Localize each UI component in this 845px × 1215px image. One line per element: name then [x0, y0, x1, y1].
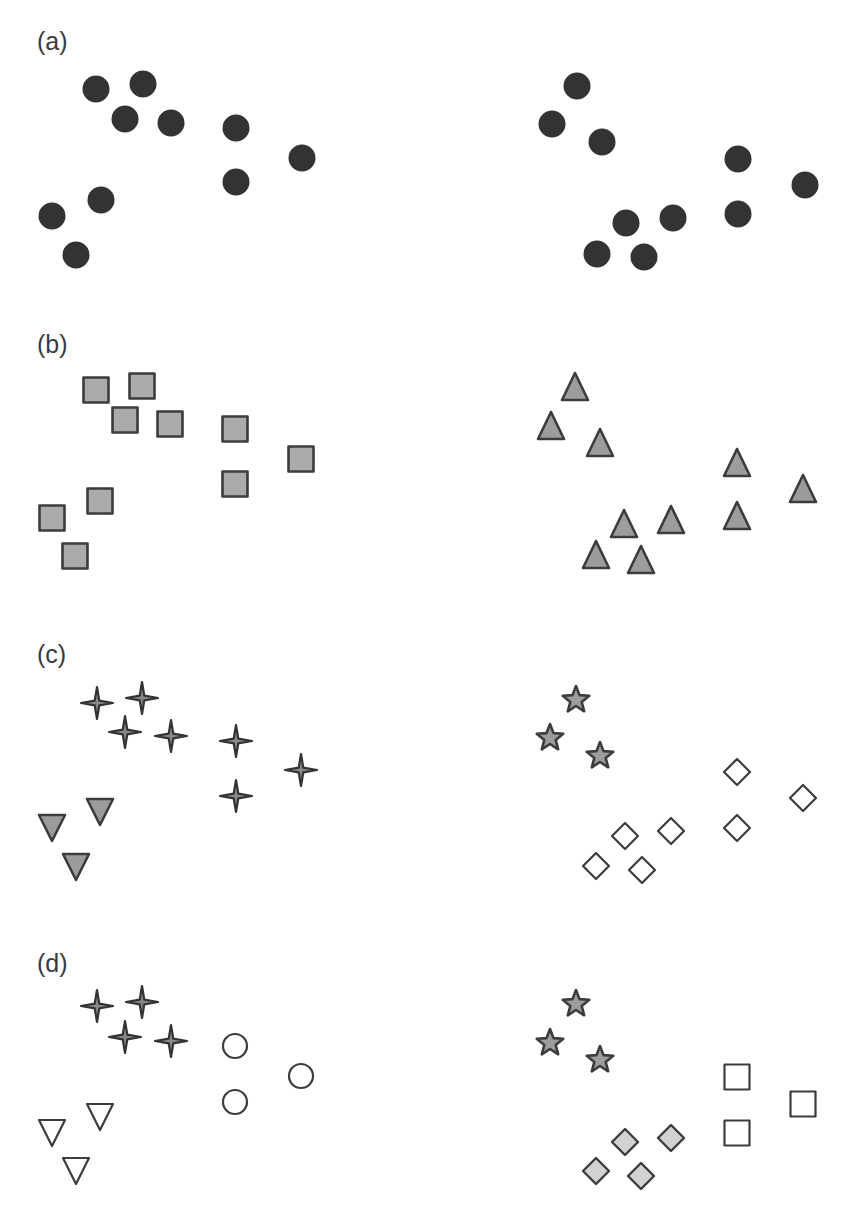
- left-cluster-squares: [40, 374, 314, 569]
- left-cluster-open-down-triangles: [39, 1104, 113, 1184]
- four-point-star-icon: [126, 682, 158, 714]
- diamond-marker-icon: [724, 815, 750, 841]
- right-cluster-triangles: [538, 373, 816, 573]
- five-point-star-icon: [537, 724, 564, 749]
- diamond-marker-icon: [612, 823, 638, 849]
- four-point-star-icon: [81, 990, 113, 1022]
- circle-marker-icon: [792, 172, 819, 199]
- four-point-star-icon: [285, 754, 317, 786]
- left-cluster-4pt-stars: [81, 986, 187, 1057]
- five-point-star-icon: [563, 686, 590, 711]
- circle-marker-icon: [289, 1064, 313, 1088]
- circle-marker-icon: [83, 76, 110, 103]
- circle-marker-icon: [88, 187, 115, 214]
- circle-marker-icon: [158, 110, 185, 137]
- triangle-up-marker-icon: [628, 546, 654, 573]
- square-marker-icon: [725, 1065, 750, 1090]
- square-marker-icon: [223, 417, 248, 442]
- left-cluster-circles: [39, 71, 316, 269]
- circle-marker-icon: [725, 146, 752, 173]
- panel-c-markers: [39, 682, 816, 883]
- four-point-star-icon: [126, 986, 158, 1018]
- panel-label-a: (a): [37, 27, 68, 55]
- triangle-up-marker-icon: [611, 510, 637, 537]
- panel-label-c: (c): [37, 640, 66, 668]
- panel-a-markers: [39, 71, 819, 271]
- circle-marker-icon: [63, 242, 90, 269]
- five-point-star-icon: [537, 1029, 564, 1054]
- panel-label-b: (b): [37, 330, 68, 358]
- triangle-down-marker-icon: [39, 815, 65, 841]
- diamond-marker-icon: [658, 1125, 684, 1151]
- triangle-up-marker-icon: [724, 502, 750, 529]
- square-marker-icon: [63, 544, 88, 569]
- square-marker-icon: [113, 408, 138, 433]
- diamond-marker-icon: [724, 759, 750, 785]
- triangle-up-marker-icon: [587, 429, 613, 456]
- four-point-star-icon: [155, 720, 187, 752]
- panel-c: (c): [37, 640, 816, 883]
- left-cluster-open-circles: [223, 1034, 313, 1114]
- circle-marker-icon: [223, 1090, 247, 1114]
- diamond-marker-icon: [790, 785, 816, 811]
- diamond-marker-icon: [583, 1158, 609, 1184]
- triangle-down-marker-icon: [87, 1104, 113, 1130]
- circle-marker-icon: [223, 169, 250, 196]
- five-point-star-icon: [587, 742, 614, 767]
- circle-marker-icon: [289, 145, 316, 172]
- triangle-up-marker-icon: [562, 373, 588, 400]
- circle-marker-icon: [589, 129, 616, 156]
- square-marker-icon: [88, 489, 113, 514]
- circle-marker-icon: [613, 210, 640, 237]
- five-point-star-icon: [587, 1046, 614, 1071]
- triangle-down-marker-icon: [63, 1158, 89, 1184]
- triangle-down-marker-icon: [63, 854, 89, 880]
- square-marker-icon: [725, 1121, 750, 1146]
- four-point-star-icon: [220, 725, 252, 757]
- triangle-up-marker-icon: [790, 475, 816, 502]
- circle-marker-icon: [725, 201, 752, 228]
- circle-marker-icon: [584, 241, 611, 268]
- square-marker-icon: [84, 378, 109, 403]
- four-point-star-icon: [109, 716, 141, 748]
- left-cluster-4pt-stars: [81, 682, 317, 812]
- triangle-down-marker-icon: [87, 799, 113, 825]
- square-marker-icon: [791, 1092, 816, 1117]
- diamond-marker-icon: [658, 818, 684, 844]
- left-cluster-down-triangles: [39, 799, 113, 880]
- square-marker-icon: [130, 374, 155, 399]
- triangle-up-marker-icon: [658, 506, 684, 533]
- panel-b-markers: [40, 373, 817, 573]
- panel-d-markers: [39, 986, 816, 1189]
- triangle-up-marker-icon: [583, 541, 609, 568]
- right-cluster-circles: [539, 73, 819, 271]
- panel-label-d: (d): [37, 949, 68, 977]
- square-marker-icon: [158, 412, 183, 437]
- clustering-figure: (a) (b) (c) (d): [0, 0, 845, 1215]
- panel-b: (b): [37, 330, 816, 573]
- circle-marker-icon: [130, 71, 157, 98]
- diamond-marker-icon: [628, 1163, 654, 1189]
- circle-marker-icon: [112, 106, 139, 133]
- right-cluster-light-diamonds: [583, 1125, 684, 1189]
- five-point-star-icon: [563, 990, 590, 1015]
- right-cluster-5pt-stars: [537, 990, 614, 1071]
- four-point-star-icon: [81, 687, 113, 719]
- diamond-marker-icon: [629, 857, 655, 883]
- panel-d: (d): [37, 949, 816, 1189]
- circle-marker-icon: [660, 205, 687, 232]
- circle-marker-icon: [223, 1034, 247, 1058]
- diamond-marker-icon: [583, 853, 609, 879]
- square-marker-icon: [40, 506, 65, 531]
- circle-marker-icon: [39, 203, 66, 230]
- right-cluster-open-diamonds: [583, 759, 816, 883]
- right-cluster-open-squares: [725, 1065, 816, 1146]
- panel-a: (a): [37, 27, 819, 271]
- diamond-marker-icon: [612, 1129, 638, 1155]
- circle-marker-icon: [223, 115, 250, 142]
- right-cluster-5pt-stars: [537, 686, 614, 767]
- circle-marker-icon: [564, 73, 591, 100]
- circle-marker-icon: [539, 111, 566, 138]
- square-marker-icon: [289, 447, 314, 472]
- four-point-star-icon: [109, 1021, 141, 1053]
